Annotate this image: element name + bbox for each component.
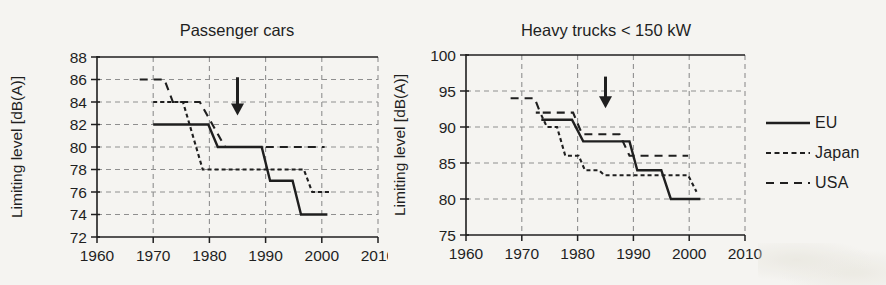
x-tick-label: 1990 — [248, 247, 283, 264]
y-axis-title: Limiting level [dB(A)] — [8, 76, 25, 218]
y-tick-label: 80 — [70, 139, 88, 156]
y-tick-label: 86 — [70, 71, 87, 88]
series-usa — [511, 98, 688, 156]
japan-line-sample — [764, 148, 812, 158]
chart-title: Passenger cars — [180, 21, 295, 39]
series-eu — [541, 120, 700, 199]
y-tick-label: 76 — [70, 184, 87, 201]
arrow-head — [599, 96, 612, 108]
legend-item-japan: Japan — [764, 142, 884, 164]
y-axis-title: Limiting level [dB(A)] — [391, 74, 408, 216]
chart-title: Heavy trucks < 150 kW — [521, 21, 692, 39]
y-tick-label: 85 — [439, 155, 456, 172]
legend-item-usa: USA — [764, 172, 884, 194]
eu-line-sample — [764, 118, 812, 128]
y-tick-label: 100 — [430, 47, 456, 64]
x-tick-label: 2000 — [305, 247, 340, 264]
x-tick-label: 1970 — [136, 247, 171, 264]
y-tick-label: 80 — [439, 191, 457, 208]
y-tick-label: 75 — [439, 227, 456, 244]
axes: 1960197019801990200020107580859095100 — [430, 47, 762, 263]
x-tick-label: 2010 — [361, 247, 388, 264]
arrow-head — [231, 104, 244, 116]
x-tick-label: 1960 — [449, 245, 484, 262]
plot-area: 1960197019801990200020107580859095100 — [430, 47, 762, 263]
y-tick-label: 88 — [70, 49, 87, 66]
y-tick-label: 84 — [70, 94, 88, 111]
plot-area: 1960197019801990200020107274767880828486… — [70, 49, 388, 265]
x-tick-label: 1980 — [560, 245, 595, 262]
legend-label-eu: EU — [815, 114, 838, 132]
x-tick-label: 1980 — [192, 247, 227, 264]
heavy-trucks-chart: Heavy trucks < 150 kW Limiting level [dB… — [388, 0, 764, 285]
legend: EU Japan USA — [764, 112, 884, 194]
y-tick-label: 74 — [70, 206, 88, 223]
legend-label-japan: Japan — [815, 144, 860, 162]
passenger-cars-chart: Passenger cars Limiting level [dB(A)] 19… — [0, 0, 388, 285]
axes: 1960197019801990200020107274767880828486… — [70, 49, 388, 265]
y-tick-label: 78 — [70, 161, 87, 178]
y-tick-label: 82 — [70, 116, 87, 133]
noise-limits-figure: Passenger cars Limiting level [dB(A)] 19… — [0, 0, 886, 285]
y-tick-label: 90 — [439, 119, 457, 136]
arrow-annotation — [599, 77, 612, 109]
x-tick-label: 2000 — [672, 245, 707, 262]
x-tick-label: 1970 — [505, 245, 540, 262]
legend-label-usa: USA — [815, 174, 849, 192]
series-usa — [140, 80, 325, 148]
scan-artifact — [758, 243, 886, 285]
arrow-annotation — [231, 77, 244, 115]
usa-line-sample — [764, 178, 812, 188]
x-tick-label: 1960 — [80, 247, 115, 264]
y-tick-label: 95 — [439, 83, 456, 100]
series-japan — [536, 113, 697, 192]
y-tick-label: 72 — [70, 229, 87, 246]
legend-item-eu: EU — [764, 112, 884, 134]
x-tick-label: 1990 — [616, 245, 651, 262]
